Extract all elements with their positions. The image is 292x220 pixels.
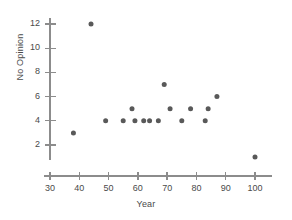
y-tick-label: 2 xyxy=(22,139,40,149)
data-point xyxy=(206,106,211,111)
data-point xyxy=(147,118,152,123)
data-point xyxy=(179,118,184,123)
data-point xyxy=(203,118,208,123)
data-point xyxy=(71,130,76,135)
data-point xyxy=(121,118,126,123)
x-tick-label: 80 xyxy=(185,183,207,193)
data-point xyxy=(214,94,219,99)
data-point xyxy=(89,22,94,27)
x-tick-label: 70 xyxy=(156,183,178,193)
data-point xyxy=(141,118,146,123)
data-point xyxy=(156,118,161,123)
y-axis-label: No Opinion xyxy=(15,15,25,99)
data-point xyxy=(130,106,135,111)
scatter-chart: 24681012 30405060708090100 No Opinion Ye… xyxy=(0,0,292,220)
y-tick-label: 4 xyxy=(22,115,40,125)
x-axis-label: Year xyxy=(0,199,292,209)
data-points xyxy=(71,22,258,160)
data-point xyxy=(103,118,108,123)
x-tick-label: 100 xyxy=(244,183,266,193)
data-point xyxy=(162,82,167,87)
data-point xyxy=(253,155,258,160)
x-tick-label: 40 xyxy=(68,183,90,193)
data-point xyxy=(168,106,173,111)
x-tick-label: 60 xyxy=(127,183,149,193)
x-tick-label: 90 xyxy=(215,183,237,193)
data-point xyxy=(188,106,193,111)
x-tick-label: 30 xyxy=(39,183,61,193)
axes xyxy=(44,18,272,180)
data-point xyxy=(132,118,137,123)
x-tick-label: 50 xyxy=(98,183,120,193)
